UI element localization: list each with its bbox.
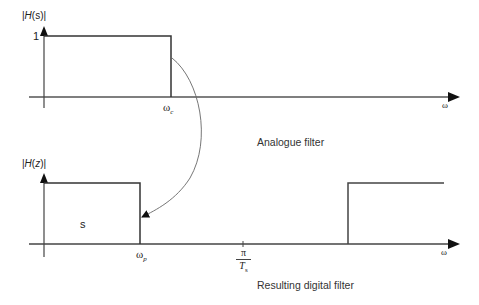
sampling-period: Ts	[236, 261, 251, 271]
pi-symbol: π	[236, 248, 251, 258]
analogue-lowpass-response	[44, 36, 171, 97]
analogue-y-axis-label: |H(s)|	[22, 11, 46, 21]
h-symbol: H	[25, 158, 32, 169]
digital-x-axis-label: ω	[441, 248, 447, 257]
digital-passband	[44, 183, 140, 244]
h-symbol: H	[25, 10, 32, 21]
digital-y-axis-label: |H(z)|	[22, 159, 46, 169]
s-argument: (s)	[32, 10, 44, 21]
nyquist-label: π Ts	[236, 248, 251, 271]
analogue-y-axis-arrow-icon	[40, 26, 48, 36]
digital-plot	[29, 173, 460, 257]
digital-image-band	[348, 183, 444, 244]
analogue-x-axis-arrow-icon	[448, 92, 460, 102]
cutoff-subscript: c	[170, 108, 173, 116]
abs-close: |	[44, 10, 47, 21]
analogue-x-axis-label: ω	[442, 101, 448, 110]
digital-cutoff-label: ωp	[136, 249, 147, 260]
s-subscript: s	[245, 266, 248, 274]
analogue-cutoff-label: ωc	[163, 102, 173, 113]
digital-x-axis-arrow-icon	[448, 239, 460, 249]
abs-close: )|	[40, 158, 46, 169]
digital-caption: Resulting digital filter	[257, 280, 354, 291]
digital-y-axis-arrow-icon	[40, 173, 48, 183]
analogue-plot	[29, 26, 460, 108]
analogue-caption: Analogue filter	[257, 137, 324, 148]
passband-mark: s	[80, 219, 86, 230]
cutoff-subscript: p	[143, 255, 147, 263]
unity-level-label: 1	[33, 31, 39, 42]
